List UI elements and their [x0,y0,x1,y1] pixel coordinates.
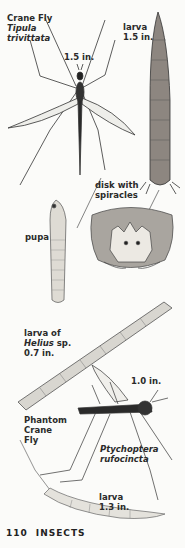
crane-fly-larva-stage: larva [123,22,153,32]
section-title: INSECTS [36,528,86,538]
helius-suffix: sp. [57,338,71,348]
phantom-line3: Fly [24,435,67,445]
crane-fly-species: trivittata [7,33,52,43]
spiracle-disk-illustration [91,208,173,269]
page-number: 110 [6,528,28,538]
phantom-line2: Crane [24,425,67,435]
crane-fly-illustration [8,18,135,185]
crane-fly-label: Crane Fly Tipula trivittata [7,13,52,43]
phantom-size: 1.0 in. [131,376,161,386]
crane-fly-genus: Tipula [7,23,52,33]
crane-fly-size: 1.5 in. [64,52,94,62]
pupa-label: pupa [25,232,49,242]
phantom-larva-stage: larva [99,492,129,502]
phantom-crane-fly-label: Phantom Crane Fly [24,415,67,445]
ptychoptera-genus: Ptychoptera [100,444,159,454]
phantom-larva-label: larva 1.3 in. [99,492,129,512]
disk-label-line2: spiracles [95,190,139,200]
helius-larva-label: larva of Helius sp. 0.7 in. [24,328,71,358]
disk-label-line1: disk with [95,180,139,190]
crane-fly-common-name: Crane Fly [7,13,52,23]
ptychoptera-label: Ptychoptera rufocincta [100,444,159,464]
phantom-larva-size: 1.3 in. [99,502,129,512]
insect-illustrations [0,0,185,548]
helius-larva-line1: larva of [24,328,71,338]
helius-larva-name: Helius sp. [24,338,71,348]
crane-fly-larva-label: larva 1.5 in. [123,22,153,42]
crane-fly-larva-size: 1.5 in. [123,32,153,42]
helius-genus: Helius [24,338,54,348]
page-footer: 110INSECTS [6,528,94,538]
phantom-line1: Phantom [24,415,67,425]
pupa-illustration [50,200,66,303]
ptychoptera-species: rufocincta [100,454,159,464]
disk-label: disk with spiracles [95,180,139,200]
helius-larva-size: 0.7 in. [24,348,71,358]
